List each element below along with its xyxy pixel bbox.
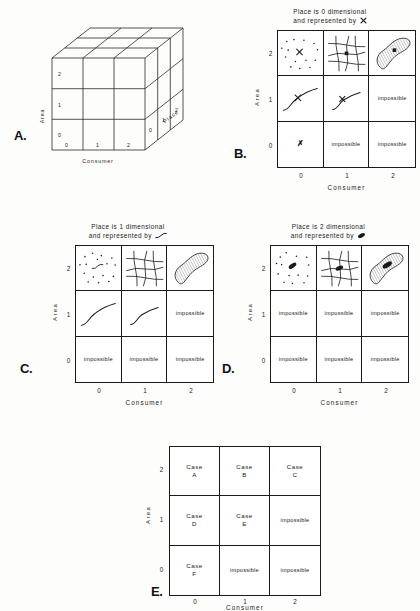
panel-d-tick-y-1: 1 xyxy=(259,311,268,318)
s-curve-with-x-icon xyxy=(278,76,323,120)
matrix-cell-e-r0-c1: impossible xyxy=(220,546,270,595)
matrix-cell-b-r1-c0 xyxy=(278,76,324,121)
panel-b-tick-x-1: 1 xyxy=(341,172,353,179)
panel-a-tick-x-2: 2 xyxy=(127,142,130,148)
cell-label-impossible: impossible xyxy=(281,516,310,524)
cell-label-impossible: impossible xyxy=(371,355,400,363)
cell-label-impossible: impossible xyxy=(371,309,400,317)
matrix-cell-c-r2-c2 xyxy=(167,246,213,291)
panel-d: D. Place is 2 dimensional and represente… xyxy=(210,215,420,420)
panel-b: B. Place is 0 dimensional and represente… xyxy=(210,0,420,205)
short-curve-with-x-icon xyxy=(324,76,369,120)
panel-a: A. xyxy=(0,0,210,200)
matrix-cell-d-r1-c0: impossible xyxy=(271,291,317,336)
panel-b-header-line2: and represented by xyxy=(293,17,356,24)
matrix-cell-c-r0-c0: impossible xyxy=(76,337,122,382)
panel-e-tick-y-1: 1 xyxy=(157,516,166,523)
matrix-cell-e-r0-c0: CaseF xyxy=(170,546,220,595)
cell-label-impossible: impossible xyxy=(230,566,259,574)
cell-label-impossible: impossible xyxy=(332,140,361,148)
cell-label-impossible: impossible xyxy=(378,94,407,102)
s-curve-icon xyxy=(76,291,121,335)
panel-a-tick-x-0: 0 xyxy=(65,142,68,148)
panel-c-header-line1: Place is 1 dimensional xyxy=(48,223,208,232)
matrix-cell-e-r1-c2: impossible xyxy=(270,496,320,545)
matrix-cell-d-r0-c1: impossible xyxy=(317,337,363,382)
panel-c-letter: C. xyxy=(20,361,32,376)
matrix-cell-c-r0-c2: impossible xyxy=(167,337,213,382)
panel-d-tick-y-0: 0 xyxy=(259,357,268,364)
panel-a-tick-y-1: 1 xyxy=(58,102,61,108)
panel-c-tick-x-1: 1 xyxy=(139,387,151,394)
matrix-cell-b-r2-c1 xyxy=(324,31,370,76)
panel-b-matrix: impossible✗impossibleimpossible xyxy=(277,30,416,168)
panel-b-header-line1: Place is 0 dimensional xyxy=(250,8,410,17)
panel-c-axis-y-label: Area xyxy=(52,297,58,327)
matrix-cell-e-r1-c0: CaseD xyxy=(170,496,220,545)
matrix-cell-d-r0-c0: impossible xyxy=(271,337,317,382)
matrix-cell-c-r2-c0 xyxy=(76,246,122,291)
filled-blob-icon xyxy=(357,232,366,242)
matrix-cell-c-r0-c1: impossible xyxy=(122,337,168,382)
matrix-cell-c-r1-c0 xyxy=(76,291,122,336)
matrix-cell-b-r0-c1: impossible xyxy=(324,122,370,167)
panel-a-axis-y-label: Area xyxy=(39,109,45,124)
panel-d-axis-y-label: Area xyxy=(247,297,253,327)
matrix-cell-b-r2-c0 xyxy=(278,31,324,76)
scatter-points-with-blob-icon xyxy=(271,246,316,290)
panel-a-tick-y-0: 0 xyxy=(58,132,61,138)
matrix-cell-c-r1-c1 xyxy=(122,291,168,336)
panel-a-tick-z-1: 1 xyxy=(162,117,165,123)
panel-c-tick-x-2: 2 xyxy=(185,387,197,394)
panel-d-tick-x-2: 2 xyxy=(380,387,392,394)
panel-c-tick-y-1: 1 xyxy=(64,311,73,318)
matrix-cell-b-r1-c1 xyxy=(324,76,370,121)
mesh-grid-with-blob-icon xyxy=(317,246,362,290)
panel-d-tick-y-2: 2 xyxy=(259,265,268,272)
point-x-icon xyxy=(360,17,367,27)
panel-d-axis-x-label: Consumer xyxy=(270,399,409,406)
matrix-cell-d-r1-c1: impossible xyxy=(317,291,363,336)
matrix-cell-b-r0-c2: impossible xyxy=(369,122,415,167)
panel-e-axis-x-label: Consumer xyxy=(169,604,321,611)
panel-b-tick-y-1: 1 xyxy=(266,96,275,103)
panel-d-letter: D. xyxy=(222,361,234,376)
panel-d-matrix: impossibleimpossibleimpossibleimpossible… xyxy=(270,245,409,383)
panel-e-matrix: CaseACaseBCaseCCaseDCaseEimpossibleCaseF… xyxy=(169,446,321,596)
panel-c-matrix: impossibleimpossibleimpossibleimpossible xyxy=(75,245,214,383)
cell-label-impossible: impossible xyxy=(279,355,308,363)
matrix-cell-d-r2-c1 xyxy=(317,246,363,291)
panel-e-letter: E. xyxy=(151,584,163,599)
panel-b-tick-x-2: 2 xyxy=(387,172,399,179)
panel-c-header-line2-wrap: and represented by xyxy=(48,232,208,242)
s-curve-short-icon xyxy=(122,291,167,335)
cell-label-case: CaseF xyxy=(186,562,202,579)
panel-d-header-line2-wrap: and represented by xyxy=(246,232,411,242)
matrix-cell-e-r2-c1: CaseB xyxy=(220,447,270,496)
scatter-points-with-x-icon xyxy=(278,31,323,75)
panel-c-tick-y-0: 0 xyxy=(64,357,73,364)
panel-e-tick-y-0: 0 xyxy=(157,566,166,573)
panel-a-cube-diagram: Area 2 1 0 Consumer 0 1 2 Place 0 1 2 xyxy=(0,0,210,200)
panel-a-letter: A. xyxy=(14,128,26,143)
panel-a-tick-y-2: 2 xyxy=(58,71,61,77)
scatter-points-with-curve-icon xyxy=(76,246,121,290)
panel-b-letter: B. xyxy=(234,146,246,161)
hatched-blob-with-x-icon xyxy=(369,31,415,75)
panel-e-tick-y-2: 2 xyxy=(157,466,166,473)
curve-line-icon xyxy=(155,232,167,242)
mesh-grid-with-x-icon xyxy=(324,31,369,75)
panel-a-tick-x-1: 1 xyxy=(96,142,99,148)
panel-c-tick-x-0: 0 xyxy=(93,387,105,394)
matrix-cell-e-r2-c0: CaseA xyxy=(170,447,220,496)
panel-b-header: Place is 0 dimensional and represented b… xyxy=(250,8,410,26)
cell-label-impossible: impossible xyxy=(281,566,310,574)
cell-label-impossible: impossible xyxy=(279,309,308,317)
panel-a-tick-z-0: 0 xyxy=(149,127,152,133)
mesh-grid-with-curve-icon xyxy=(122,246,167,290)
matrix-cell-c-r2-c1 xyxy=(122,246,168,291)
figure-container: A. xyxy=(0,0,420,611)
cell-label-impossible: impossible xyxy=(176,309,205,317)
matrix-cell-c-r1-c2: impossible xyxy=(167,291,213,336)
matrix-cell-b-r2-c2 xyxy=(369,31,415,76)
